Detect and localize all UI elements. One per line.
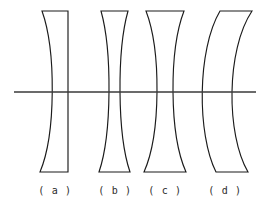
- lens-diagram-figure: ( a ) ( b ) ( c ) ( d ): [0, 0, 261, 212]
- lens-caption-d: ( d ): [205, 185, 245, 196]
- lens-caption-c: ( c ): [145, 185, 185, 196]
- lens-diagram-canvas: [0, 0, 261, 212]
- lens-caption-a: ( a ): [35, 185, 75, 196]
- lens-caption-b: ( b ): [95, 185, 135, 196]
